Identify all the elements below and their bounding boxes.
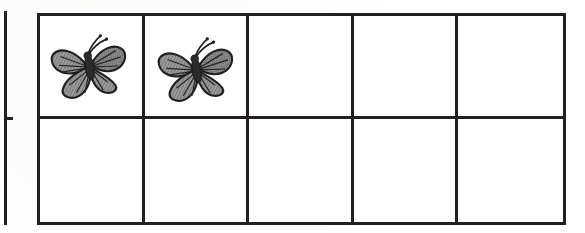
cell-r1c5[interactable] bbox=[458, 16, 563, 119]
cell-r2c2[interactable] bbox=[145, 119, 250, 222]
cell-r2c4[interactable] bbox=[354, 119, 459, 222]
butterfly-icon bbox=[155, 35, 241, 103]
worksheet-page bbox=[0, 0, 585, 233]
cell-r2c5[interactable] bbox=[458, 119, 563, 222]
cell-r2c3[interactable] bbox=[249, 119, 354, 222]
cell-r1c4[interactable] bbox=[354, 16, 459, 119]
cell-r2c1[interactable] bbox=[40, 119, 145, 222]
ten-frame-grid[interactable] bbox=[37, 13, 566, 225]
cell-r1c1[interactable] bbox=[40, 16, 145, 119]
cell-r1c2[interactable] bbox=[145, 16, 250, 119]
left-partial-grid bbox=[4, 11, 14, 225]
butterfly-icon bbox=[48, 32, 134, 100]
cell-r1c3[interactable] bbox=[249, 16, 354, 119]
left-partial-row-divider-tick bbox=[4, 117, 13, 120]
